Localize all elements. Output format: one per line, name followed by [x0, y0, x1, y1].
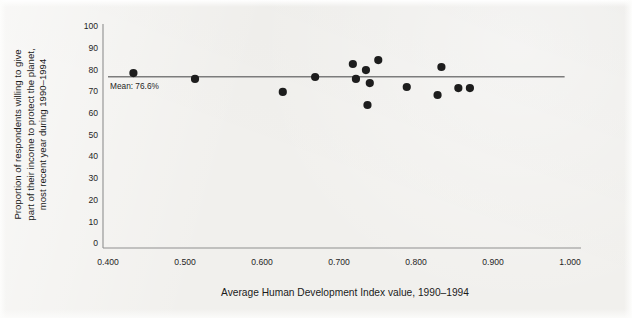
x-tick-label: 0.400 — [97, 257, 119, 267]
page-edge-left — [0, 0, 6, 318]
x-axis-tick-labels: 0.4000.5000.6000.7000.8000.9001.000 — [97, 257, 581, 267]
y-tick-label: 60 — [88, 108, 98, 118]
x-tick-label: 0.800 — [405, 257, 427, 267]
x-axis-title: Average Human Development Index value, 1… — [221, 287, 469, 298]
x-tick-label: 0.600 — [251, 257, 273, 267]
y-tick-label: 20 — [88, 195, 98, 205]
y-axis-tick-labels: 0102030405060708090100 — [84, 21, 99, 248]
y-tick-label: 70 — [88, 86, 98, 96]
y-axis-title-line: Proportion of respondents willing to giv… — [12, 49, 23, 219]
data-point — [279, 88, 287, 96]
y-tick-label: 80 — [88, 65, 98, 75]
data-point-group — [129, 56, 474, 109]
y-axis-title-line: most recent year during 1990–1994 — [37, 58, 48, 210]
y-tick-label: 40 — [88, 151, 98, 161]
y-tick-label: 10 — [88, 217, 98, 227]
data-point — [466, 84, 474, 92]
page-edge-top — [0, 0, 632, 7]
x-tick-label: 0.500 — [174, 257, 196, 267]
data-point — [366, 79, 374, 87]
page-edge-bottom — [0, 309, 632, 318]
y-tick-label: 0 — [93, 238, 98, 248]
data-point — [363, 101, 371, 109]
data-point — [454, 84, 462, 92]
data-point — [362, 66, 370, 74]
y-tick-label: 100 — [84, 21, 99, 31]
data-point — [129, 69, 137, 77]
x-tick-label: 0.900 — [482, 257, 504, 267]
data-point — [311, 73, 319, 81]
data-point — [437, 63, 445, 71]
x-tick-label: 0.700 — [328, 257, 350, 267]
data-point — [374, 56, 382, 64]
scatter-plot-svg: 0102030405060708090100 0.4000.5000.6000.… — [0, 0, 632, 318]
chart-figure: 0102030405060708090100 0.4000.5000.6000.… — [0, 0, 632, 318]
data-point — [433, 91, 441, 99]
y-axis-title-line: part of their income to protect the plan… — [25, 48, 36, 220]
data-point — [403, 83, 411, 91]
data-point — [349, 60, 357, 68]
x-tick-label: 1.000 — [559, 257, 581, 267]
y-axis-title: Proportion of respondents willing to giv… — [12, 48, 48, 220]
data-point — [352, 75, 360, 83]
page-edge-right — [624, 0, 632, 318]
y-tick-label: 30 — [88, 173, 98, 183]
data-point — [191, 75, 199, 83]
y-tick-label: 50 — [88, 130, 98, 140]
y-tick-label: 90 — [88, 43, 98, 53]
mean-label: Mean: 76.6% — [110, 81, 160, 91]
